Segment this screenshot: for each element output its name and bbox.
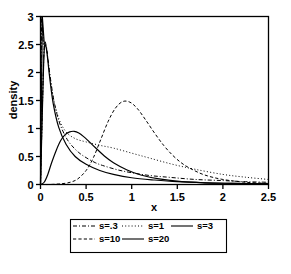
legend-label-s10: s=10: [99, 233, 120, 244]
y-tick-label: 2: [27, 67, 33, 79]
legend-label-s3: s=.3: [99, 220, 118, 231]
y-tick-label: 1: [27, 123, 33, 135]
legend-label-s20: s=20: [148, 233, 169, 244]
chart-canvas: 00.511.522.5 00.511.522.53 x density s=.…: [0, 0, 291, 274]
y-tick-label: 2.5: [18, 39, 33, 51]
y-axis-ticks: 00.511.522.53: [18, 11, 40, 191]
x-tick-label: 0: [37, 191, 43, 203]
curve-s3: [41, 41, 269, 184]
density-plot-figure: 00.511.522.5 00.511.522.53 x density s=.…: [0, 0, 291, 274]
y-axis-title: density: [7, 80, 19, 119]
y-tick-label: 0.5: [18, 151, 33, 163]
legend-label-s3: s=3: [197, 220, 213, 231]
curve-s3: [41, 44, 269, 184]
curve-s10: [41, 101, 269, 184]
y-tick-label: 3: [27, 11, 33, 23]
x-tick-label: 2.5: [261, 191, 276, 203]
x-tick-label: 1: [129, 191, 135, 203]
curves-group: [41, 17, 269, 185]
y-tick-label: 1.5: [18, 95, 33, 107]
curve-s1: [41, 43, 269, 184]
chart-legend: s=.3s=1s=3s=10s=20: [71, 220, 227, 253]
x-tick-label: 0.5: [78, 191, 93, 203]
legend-label-s1: s=1: [148, 220, 165, 231]
x-tick-label: 2: [220, 191, 226, 203]
x-axis-title: x: [151, 201, 158, 213]
x-axis-ticks: 00.511.522.5: [37, 185, 276, 203]
x-tick-label: 1.5: [170, 191, 185, 203]
y-tick-label: 0: [27, 179, 33, 191]
